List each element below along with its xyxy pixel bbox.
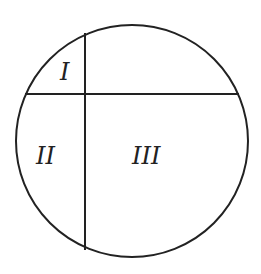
- circle-diagram: I II III: [0, 0, 261, 274]
- outer-circle: [16, 25, 248, 257]
- region-1-label: I: [59, 58, 70, 86]
- region-2-label: II: [35, 142, 55, 170]
- region-3-label: III: [131, 142, 161, 170]
